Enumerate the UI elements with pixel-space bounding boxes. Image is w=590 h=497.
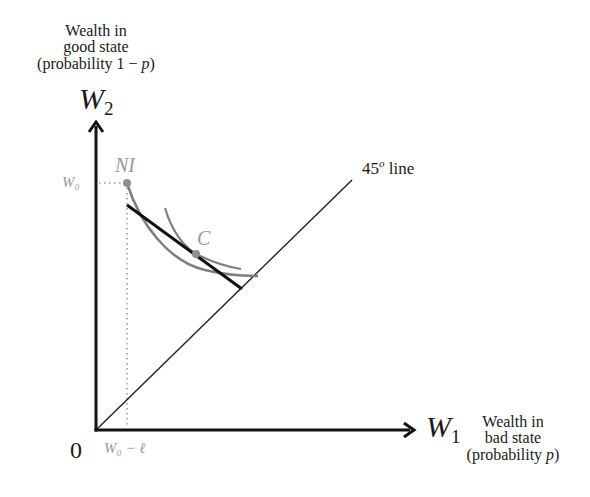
- w0-minus-loss-tick-label: W₀ − ℓ: [104, 441, 146, 456]
- no-insurance-point: [123, 179, 131, 187]
- origin-label: 0: [70, 438, 82, 462]
- ni-label: NI: [115, 155, 135, 175]
- line-suffix: line: [385, 159, 415, 178]
- y-desc-line-1: Wealth in: [0, 23, 192, 39]
- y-desc-line-3: (probability 1 − p): [0, 56, 192, 72]
- y-desc-line-2: good state: [0, 39, 192, 55]
- forty-five-degree-line: [96, 180, 352, 430]
- indifference-curve-ni: [127, 183, 258, 276]
- x-desc-line-3: (probability p): [448, 447, 578, 463]
- choice-point: [192, 250, 200, 258]
- forty-five-line-label: 45o line: [362, 158, 414, 177]
- x-desc-line-1: Wealth in: [448, 414, 578, 430]
- x-axis-description: Wealth in bad state (probability p): [448, 414, 578, 463]
- y-axis-label: W2: [79, 84, 114, 118]
- c-label: C: [197, 228, 210, 248]
- w0-tick-label: W₀: [62, 175, 80, 190]
- forty-five-value: 45: [362, 159, 379, 178]
- y-axis-symbol: W: [79, 82, 104, 115]
- x-desc-line-2: bad state: [448, 430, 578, 446]
- insurance-diagram: Wealth in good state (probability 1 − p)…: [0, 0, 590, 497]
- budget-line: [127, 205, 242, 289]
- y-axis-description: Wealth in good state (probability 1 − p): [0, 23, 192, 72]
- y-axis-subscript: 2: [104, 98, 114, 119]
